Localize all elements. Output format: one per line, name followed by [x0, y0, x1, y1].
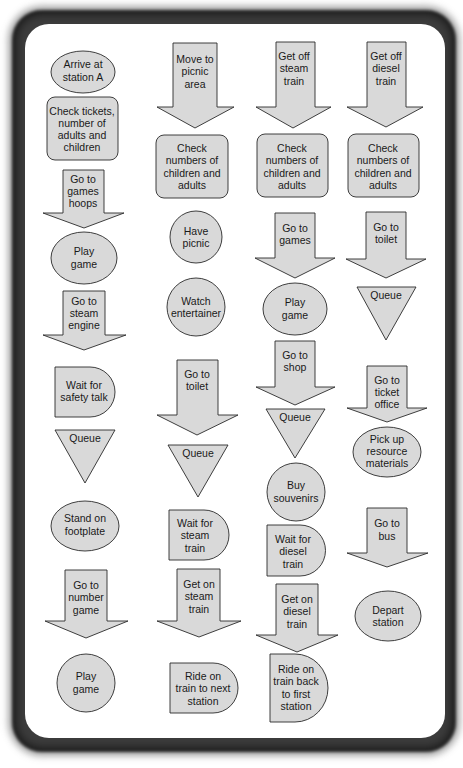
step-label: number: [68, 591, 104, 603]
step-label: Queue: [182, 447, 214, 459]
col3-step-check-numbers: Check numbers of children and adults: [257, 134, 328, 197]
step-label: Ride on: [278, 663, 314, 675]
step-label: hoops: [69, 197, 98, 209]
step-label: toilet: [375, 233, 397, 245]
col2-step-ride-to-next-station: Ride on train to next station: [170, 663, 238, 713]
step-label: train to next: [176, 682, 231, 694]
step-label: game: [71, 258, 97, 270]
step-label: Check tickets,: [49, 105, 114, 117]
col2-step-have-picnic: Have picnic: [170, 211, 222, 263]
step-label: Go to: [282, 222, 308, 234]
step-label: steam: [181, 529, 210, 541]
step-label: games: [279, 234, 311, 246]
col2-step-queue: Queue: [168, 445, 228, 497]
step-label: Wait for: [66, 379, 102, 391]
step-label: Play: [74, 245, 95, 257]
col3-step-play-game: Play game: [263, 283, 327, 335]
step-label: Stand on: [64, 512, 106, 524]
col1-step-play-game-2: Play game: [57, 654, 115, 712]
step-label: souvenirs: [274, 492, 319, 504]
step-label: Ride on: [185, 670, 221, 682]
step-label: footplate: [65, 525, 105, 537]
step-label: Arrive at: [63, 58, 102, 70]
step-label: train: [284, 75, 305, 87]
step-label: train: [287, 618, 308, 630]
col1-step-arrive-station: Arrive at station A: [51, 51, 115, 93]
step-label: diesel: [279, 545, 306, 557]
col4-step-go-to-ticket-office: Go to ticket office: [347, 366, 427, 422]
step-label: Check: [277, 142, 308, 154]
col2-step-go-to-toilet: Go to toilet: [157, 360, 238, 435]
step-label: game: [73, 604, 99, 616]
step-label: games: [67, 185, 99, 197]
col1-step-play-game: Play game: [51, 232, 117, 284]
step-label: Wait for: [177, 517, 213, 529]
step-label: Pick up: [370, 433, 405, 445]
step-label: Check: [177, 142, 208, 154]
step-label: numbers of: [166, 154, 219, 166]
step-label: diesel: [372, 62, 399, 74]
col1-step-check-tickets: Check tickets, number of adults and chil…: [47, 97, 118, 160]
step-label: Play: [285, 296, 306, 308]
step-label: train: [189, 603, 210, 615]
step-label: train back: [273, 675, 319, 687]
step-label: children and: [163, 167, 220, 179]
col2-step-get-on-steam-train: Get on steam train: [157, 569, 241, 637]
step-label: Watch: [181, 295, 211, 307]
step-label: station: [188, 695, 219, 707]
col2-step-move-to-picnic: Move to picnic area: [157, 43, 234, 128]
step-label: resource: [367, 445, 408, 457]
step-label: materials: [366, 457, 409, 469]
col1-step-go-to-games-hoops: Go to games hoops: [43, 170, 124, 228]
col4-step-get-off-diesel-train: Get off diesel train: [347, 42, 423, 127]
step-label: Get off: [278, 50, 309, 62]
step-label: Queue: [69, 432, 101, 444]
step-label: Buy: [287, 479, 306, 491]
col3-step-buy-souvenirs: Buy souvenirs: [267, 463, 325, 521]
col1-step-stand-on-footplate: Stand on footplate: [51, 501, 119, 551]
step-label: engine: [68, 319, 100, 331]
step-label: entertainer: [171, 307, 222, 319]
step-label: children: [64, 141, 101, 153]
step-label: Get off: [370, 50, 401, 62]
col2-step-watch-entertainer: Watch entertainer: [167, 278, 225, 336]
step-label: game: [282, 309, 308, 321]
col3-step-ride-back-first-station: Ride on train back to first station: [270, 654, 328, 722]
step-label: train: [185, 542, 206, 554]
step-label: train: [376, 75, 397, 87]
step-label: Play: [76, 670, 97, 682]
process-diagram: Arrive at station A Check tickets, numbe…: [0, 0, 463, 768]
step-label: adults and: [58, 129, 107, 141]
step-label: Depart: [372, 604, 404, 616]
step-label: Go to: [373, 221, 399, 233]
step-label: area: [184, 78, 205, 90]
step-label: Go to: [374, 374, 400, 386]
step-label: children and: [354, 167, 411, 179]
col3-step-go-to-shop: Go to shop: [256, 341, 335, 405]
step-label: Get on: [183, 578, 215, 590]
step-label: Go to: [282, 349, 308, 361]
col4-step-go-to-bus: Go to bus: [347, 508, 428, 567]
col2-step-check-numbers: Check numbers of children and adults: [156, 135, 228, 198]
col2-step-wait-steam-train: Wait for steam train: [169, 510, 229, 560]
col4-step-depart-station: Depart station: [355, 591, 421, 641]
col3-step-wait-diesel-train: Wait for diesel train: [267, 525, 326, 576]
step-label: Move to: [176, 53, 214, 65]
step-label: adults: [278, 179, 306, 191]
step-label: toilet: [186, 380, 208, 392]
col3-step-get-off-steam-train: Get off steam train: [256, 42, 331, 128]
step-label: steam: [280, 62, 309, 74]
step-label: Have: [184, 225, 209, 237]
step-label: picnic: [182, 65, 209, 77]
col4-step-check-numbers: Check numbers of children and adults: [348, 134, 419, 197]
step-label: station: [373, 616, 404, 628]
step-label: shop: [284, 361, 307, 373]
step-label: office: [375, 398, 400, 410]
step-label: safety talk: [60, 391, 108, 403]
step-label: bus: [379, 530, 396, 542]
step-label: station A: [63, 71, 103, 83]
step-label: number of: [58, 117, 105, 129]
step-label: diesel: [283, 605, 310, 617]
step-label: Go to: [73, 579, 99, 591]
step-label: adults: [369, 179, 397, 191]
